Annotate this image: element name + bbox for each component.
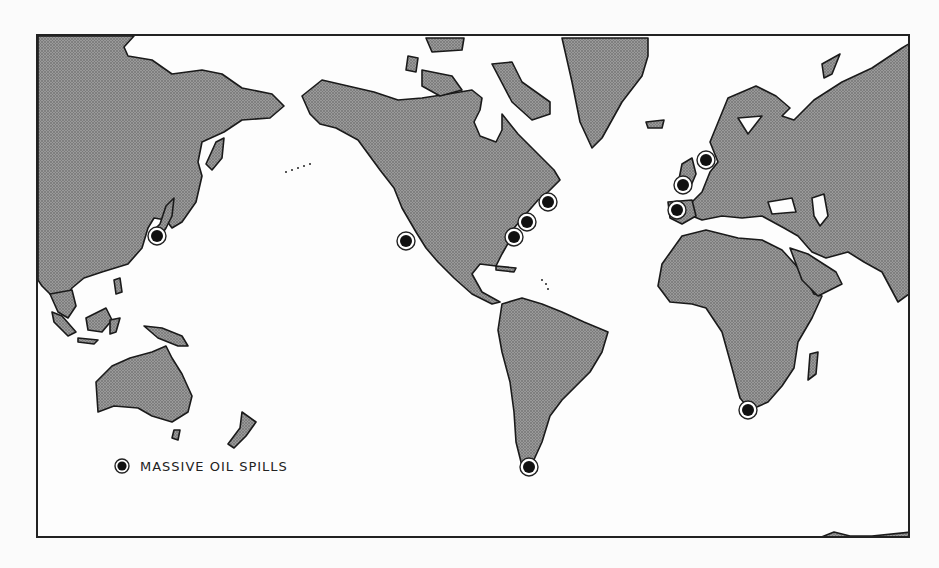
north-america [302,80,560,304]
new-zealand [228,412,256,448]
oil-spill-marker [697,151,715,169]
south-america [498,298,608,466]
iceland [646,120,664,128]
oil-spill-marker [668,201,686,219]
australia [96,346,192,422]
oil-spill-marker [674,176,692,194]
oil-spill-marker [539,193,557,211]
greenland [562,38,648,148]
oil-spill-marker [397,232,415,250]
oil-spill-marker [148,227,166,245]
arctic-island-3 [406,56,418,72]
new-guinea [144,326,188,346]
baffin-island [492,62,550,120]
philippines [114,278,122,294]
sakhalin [206,138,224,170]
tasmania [172,430,180,440]
legend-label: MASSIVE OIL SPILLS [140,459,288,474]
oil-spill-legend-icon [114,458,130,474]
aleutian-dots [285,163,311,173]
arctic-island-1 [426,38,464,52]
legend: MASSIVE OIL SPILLS [114,458,288,474]
novaya-zemlya [822,54,840,78]
oil-spill-marker [505,228,523,246]
madagascar [808,352,818,380]
borneo [86,308,112,332]
cuba [496,266,516,272]
arctic-island-2 [422,70,462,96]
antilles-dots [541,279,549,290]
asia-east [38,36,284,302]
java [78,338,98,344]
sulawesi [110,318,120,334]
oil-spill-marker [739,401,757,419]
oil-spill-marker [520,458,538,476]
antarctica-fragment [814,532,910,538]
oil-spill-marker [518,213,536,231]
